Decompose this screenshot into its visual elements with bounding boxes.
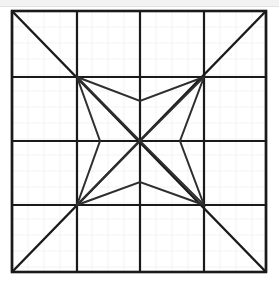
figure-canvas: Concave four-pointed star inscribed in a…	[0, 0, 279, 282]
star-spoke-bottom-left	[77, 141, 140, 205]
geometric-figure	[0, 0, 279, 282]
star-spoke-top-left	[77, 77, 140, 141]
